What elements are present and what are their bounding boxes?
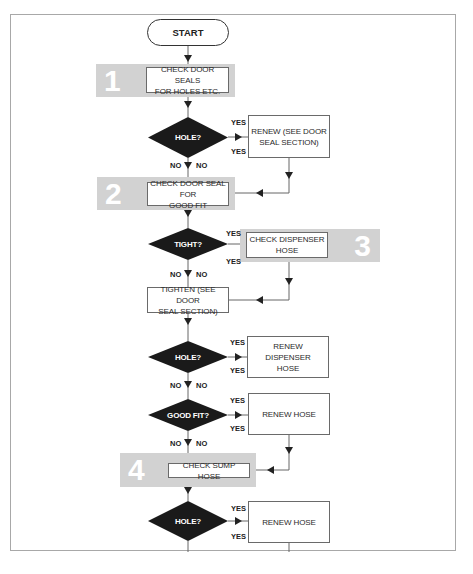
no-label: NO: [196, 439, 207, 448]
decision-good-fit: GOOD FIT?: [148, 399, 228, 431]
step-2-box: CHECK DOOR SEAL FORGOOD FIT: [147, 182, 229, 206]
decision-good-fit-label: GOOD FIT?: [167, 411, 209, 420]
start-terminal: START: [147, 19, 229, 46]
no-label: NO: [170, 270, 181, 279]
decision-tight: TIGHT?: [148, 228, 228, 260]
step-3-box: CHECK DISPENSERHOSE: [246, 232, 328, 258]
renew-door-seal-line-2: SEAL SECTION): [249, 137, 328, 148]
step-number-3: 3: [354, 231, 371, 261]
start-label: START: [173, 27, 204, 38]
tighten-text-line-2: SEAL SECTION): [148, 306, 228, 317]
tighten-text-line-1: TIGHTEN (SEE DOOR: [148, 284, 228, 306]
decision-hole-1-label: HOLE?: [175, 133, 201, 142]
no-label: NO: [196, 161, 207, 170]
decision-hole-3: HOLE?: [148, 501, 228, 541]
step-number-2: 2: [105, 179, 122, 209]
yes-label: YES: [226, 257, 241, 266]
yes-label: YES: [231, 147, 246, 156]
renew-dispenser-line-1: RENEW DISPENSER: [248, 341, 328, 363]
step-1-text-line-1: CHECK DOOR SEALS: [147, 64, 228, 86]
yes-label: YES: [230, 366, 245, 375]
yes-label: YES: [226, 229, 241, 238]
step-3-text-line-1: CHECK DISPENSER: [248, 234, 327, 245]
renew-hose-box-2: RENEW HOSE: [248, 501, 330, 543]
decision-hole-3-label: HOLE?: [175, 517, 201, 526]
no-label: NO: [196, 270, 207, 279]
renew-hose-text-2: RENEW HOSE: [260, 517, 318, 528]
yes-label: YES: [230, 424, 245, 433]
no-label: NO: [170, 161, 181, 170]
yes-label: YES: [231, 504, 246, 513]
yes-label: YES: [231, 532, 246, 541]
renew-door-seal-line-1: RENEW (SEE DOOR: [249, 126, 328, 137]
tighten-box: TIGHTEN (SEE DOORSEAL SECTION): [147, 287, 229, 313]
renew-hose-box-1: RENEW HOSE: [248, 393, 330, 435]
no-label: NO: [170, 381, 181, 390]
renew-hose-text-1: RENEW HOSE: [260, 409, 318, 420]
step-2-text-line-2: GOOD FIT: [148, 200, 228, 211]
no-label: NO: [196, 381, 207, 390]
yes-label: YES: [231, 118, 246, 127]
step-4-box: CHECK SUMP HOSE: [168, 463, 250, 478]
step-2-text-line-1: CHECK DOOR SEAL FOR: [148, 178, 228, 200]
connector-lines: [0, 0, 473, 574]
yes-label: YES: [230, 396, 245, 405]
decision-hole-2: HOLE?: [148, 341, 228, 373]
renew-door-seal-box: RENEW (SEE DOORSEAL SECTION): [248, 115, 330, 158]
renew-dispenser-hose-box: RENEW DISPENSERHOSE: [247, 336, 329, 378]
step-1-text-line-2: FOR HOLES ETC.: [147, 86, 228, 97]
renew-dispenser-line-2: HOSE: [248, 363, 328, 374]
step-number-1: 1: [104, 66, 121, 96]
step-1-box: CHECK DOOR SEALSFOR HOLES ETC.: [146, 67, 229, 93]
no-label: NO: [170, 439, 181, 448]
decision-tight-label: TIGHT?: [174, 240, 202, 249]
decision-hole-2-label: HOLE?: [175, 353, 201, 362]
decision-hole-1: HOLE?: [148, 117, 228, 158]
step-number-4: 4: [128, 455, 145, 485]
step-4-text: CHECK SUMP HOSE: [169, 460, 249, 482]
step-3-text-line-2: HOSE: [248, 245, 327, 256]
yes-label: YES: [230, 338, 245, 347]
